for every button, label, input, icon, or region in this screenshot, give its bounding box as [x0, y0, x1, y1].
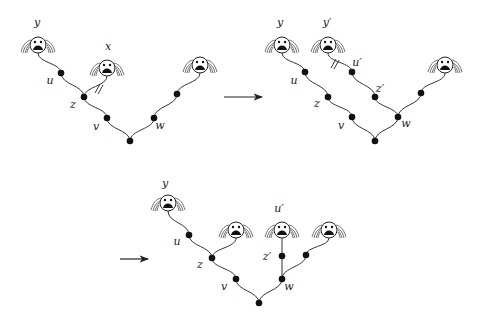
tree-edge	[212, 238, 236, 258]
tree-node	[233, 276, 240, 283]
node-label: z	[313, 97, 320, 110]
tree-node	[256, 300, 263, 307]
tree-edge	[305, 72, 328, 97]
tree-edge	[375, 97, 398, 117]
tree-node	[349, 114, 356, 121]
node-label: w	[155, 119, 165, 132]
tree-edge	[107, 118, 130, 141]
head-label: u′	[274, 202, 284, 215]
tree-edge	[259, 279, 282, 303]
tree-edge	[398, 93, 421, 117]
node-label: u	[290, 74, 297, 87]
tree-edge	[282, 255, 306, 279]
tree-node	[302, 69, 309, 76]
tree-edge	[352, 117, 375, 141]
tree-edge	[375, 117, 398, 141]
node-label: w	[401, 117, 411, 130]
head-leaf-icon	[21, 37, 55, 53]
node-label: z	[196, 258, 203, 271]
tree-node	[127, 138, 134, 145]
tree-edge	[328, 97, 352, 117]
tree-node	[58, 70, 65, 77]
node-label: z′	[375, 82, 385, 95]
tree-node	[186, 232, 193, 239]
tree-node	[279, 253, 286, 260]
tree-node	[349, 69, 356, 76]
head-leaf-icon	[265, 222, 299, 238]
head-label: y	[33, 16, 41, 29]
tree-node	[372, 138, 379, 145]
tree-node	[104, 115, 111, 122]
tree-edge	[168, 211, 189, 235]
tree-edge	[154, 94, 177, 118]
node-label: z′	[262, 250, 272, 263]
tree-node	[209, 255, 216, 262]
tree-node	[303, 252, 310, 259]
tree-edge	[38, 53, 61, 73]
head-leaf-icon	[311, 37, 345, 53]
tree-edge	[84, 76, 107, 97]
tree-edge	[177, 73, 200, 94]
cut-mark-icon	[95, 84, 103, 94]
head-leaf-icon	[183, 57, 217, 73]
node-label: z	[69, 98, 76, 111]
tree-node	[81, 94, 88, 101]
tree-edge	[352, 72, 375, 97]
tree-node	[174, 91, 181, 98]
node-label: v	[221, 280, 228, 293]
tree-edge	[328, 53, 352, 72]
head-label: y	[161, 177, 169, 190]
node-label: w	[284, 280, 294, 293]
node-label: u	[46, 74, 53, 87]
head-leaf-icon	[265, 37, 299, 53]
tree-node	[418, 90, 425, 97]
head-leaf-icon	[312, 222, 346, 238]
tree-node	[325, 94, 332, 101]
tree-edge	[212, 258, 236, 279]
tree-edge	[189, 235, 212, 258]
head-label: y′	[322, 16, 332, 29]
tree-edge	[236, 279, 259, 303]
head-leaf-icon	[90, 60, 124, 76]
tree-edge	[421, 73, 445, 93]
node-label: v	[93, 120, 100, 133]
tree-edge	[130, 118, 154, 141]
cut-mark-icon	[331, 59, 339, 69]
head-leaf-icon	[151, 195, 185, 211]
tree-edge	[306, 238, 329, 255]
head-label: y	[276, 16, 284, 29]
tree-diagram: yxuzvwyy′uu′zz′vwyu′uzvwz′	[0, 0, 481, 321]
head-label: x	[105, 40, 112, 53]
node-label: u	[173, 235, 180, 248]
tree-edge	[84, 97, 107, 118]
node-label: v	[338, 119, 345, 132]
node-label: u′	[352, 56, 362, 69]
head-leaf-icon	[428, 57, 462, 73]
tree-edge	[61, 73, 84, 97]
tree-edge	[282, 53, 305, 72]
head-leaf-icon	[219, 222, 253, 238]
